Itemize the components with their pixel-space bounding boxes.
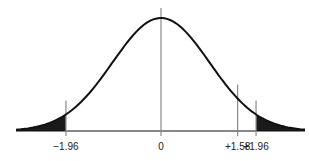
x-tick-label: −1.96: [53, 141, 78, 152]
normal-curve-plot: [0, 0, 309, 161]
x-tick-label: +1.96: [243, 141, 268, 152]
x-tick-label: 0: [158, 141, 164, 152]
marker-lines: [66, 8, 256, 136]
